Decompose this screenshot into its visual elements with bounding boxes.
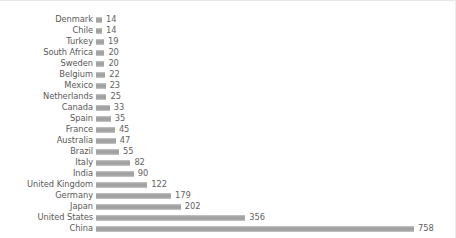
- category-label: France: [0, 124, 93, 135]
- bar-zone: 82: [96, 157, 456, 168]
- bar: [96, 94, 106, 100]
- category-label: Spain: [0, 113, 93, 124]
- category-label: Canada: [0, 102, 93, 113]
- bar-zone: 356: [96, 212, 456, 223]
- value-label: 23: [110, 80, 120, 91]
- value-label: 14: [106, 25, 116, 36]
- category-label: South Africa: [0, 47, 93, 58]
- value-label: 179: [175, 190, 191, 201]
- value-label: 202: [185, 201, 201, 212]
- bar-zone: 35: [96, 113, 456, 124]
- bar-row: Germany179: [0, 190, 456, 201]
- bar-row: Italy82: [0, 157, 456, 168]
- bar-row: Spain35: [0, 113, 456, 124]
- bar-row: Japan202: [0, 201, 456, 212]
- bar-row: Netherlands25: [0, 91, 456, 102]
- bar-row: Australia47: [0, 135, 456, 146]
- bar-zone: 179: [96, 190, 456, 201]
- bar: [96, 226, 414, 232]
- value-label: 35: [115, 113, 125, 124]
- category-label: United Kingdom: [0, 179, 93, 190]
- value-label: 55: [123, 146, 133, 157]
- category-label: Netherlands: [0, 91, 93, 102]
- bar: [96, 28, 102, 34]
- value-label: 758: [418, 223, 434, 234]
- value-label: 19: [108, 36, 118, 47]
- bar-row: China758: [0, 223, 456, 234]
- bar-row: Belgium22: [0, 69, 456, 80]
- bar-zone: 33: [96, 102, 456, 113]
- category-label: Brazil: [0, 146, 93, 157]
- bar: [96, 72, 105, 78]
- bar: [96, 116, 111, 122]
- value-label: 45: [119, 124, 129, 135]
- bar-row: France45: [0, 124, 456, 135]
- bar: [96, 50, 104, 56]
- category-label: Chile: [0, 25, 93, 36]
- bar-zone: 45: [96, 124, 456, 135]
- value-label: 90: [138, 168, 148, 179]
- category-label: Turkey: [0, 36, 93, 47]
- bar: [96, 204, 181, 210]
- bar-zone: 47: [96, 135, 456, 146]
- chart-plot-area: Denmark14Chile14Turkey19South Africa20Sw…: [0, 14, 456, 234]
- bar-row: Chile14: [0, 25, 456, 36]
- category-label: Sweden: [0, 58, 93, 69]
- value-label: 122: [151, 179, 167, 190]
- bar-zone: 90: [96, 168, 456, 179]
- bar-row: Brazil55: [0, 146, 456, 157]
- bar: [96, 39, 104, 45]
- bar: [96, 105, 110, 111]
- value-label: 47: [120, 135, 130, 146]
- category-label: Germany: [0, 190, 93, 201]
- bar-row: South Africa20: [0, 47, 456, 58]
- category-label: Denmark: [0, 14, 93, 25]
- category-label: Japan: [0, 201, 93, 212]
- category-label: Australia: [0, 135, 93, 146]
- bar: [96, 17, 102, 23]
- category-label: Italy: [0, 157, 93, 168]
- bar: [96, 193, 171, 199]
- bar: [96, 182, 147, 188]
- bar: [96, 61, 104, 67]
- bar: [96, 138, 116, 144]
- bar: [96, 149, 119, 155]
- value-label: 14: [106, 14, 116, 25]
- bar-zone: 20: [96, 58, 456, 69]
- bar-zone: 758: [96, 223, 456, 234]
- value-label: 20: [108, 47, 118, 58]
- bar-row: United Kingdom122: [0, 179, 456, 190]
- value-label: 33: [114, 102, 124, 113]
- category-label: Belgium: [0, 69, 93, 80]
- category-label: United States: [0, 212, 93, 223]
- category-label: Mexico: [0, 80, 93, 91]
- bar-zone: 22: [96, 69, 456, 80]
- bar-row: India90: [0, 168, 456, 179]
- bar-zone: 14: [96, 25, 456, 36]
- bar: [96, 83, 106, 89]
- bar-zone: 202: [96, 201, 456, 212]
- bar-zone: 25: [96, 91, 456, 102]
- bar-zone: 20: [96, 47, 456, 58]
- bar-row: United States356: [0, 212, 456, 223]
- category-label: China: [0, 223, 93, 234]
- bar-zone: 19: [96, 36, 456, 47]
- bar-zone: 14: [96, 14, 456, 25]
- bar: [96, 160, 130, 166]
- bar-zone: 122: [96, 179, 456, 190]
- value-label: 356: [249, 212, 265, 223]
- value-label: 20: [108, 58, 118, 69]
- value-label: 82: [134, 157, 144, 168]
- bar-row: Denmark14: [0, 14, 456, 25]
- bar-zone: 55: [96, 146, 456, 157]
- value-label: 22: [109, 69, 119, 80]
- bar-row: Mexico23: [0, 80, 456, 91]
- bar-row: Sweden20: [0, 58, 456, 69]
- bar-row: Canada33: [0, 102, 456, 113]
- bar-chart: Denmark14Chile14Turkey19South Africa20Sw…: [0, 0, 456, 238]
- bar: [96, 215, 245, 221]
- value-label: 25: [110, 91, 120, 102]
- bar: [96, 127, 115, 133]
- bar-zone: 23: [96, 80, 456, 91]
- category-label: India: [0, 168, 93, 179]
